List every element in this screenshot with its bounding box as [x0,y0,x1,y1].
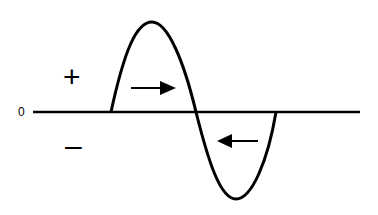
right-arrow-icon [131,81,176,95]
negative-lobe-curve [196,112,276,199]
waveform-diagram [0,0,378,215]
negative-sign-label: – [65,131,82,161]
left-arrow-icon [217,134,258,148]
positive-sign-label: + [63,62,81,92]
zero-label: 0 [18,106,25,118]
positive-lobe-curve [111,22,196,112]
